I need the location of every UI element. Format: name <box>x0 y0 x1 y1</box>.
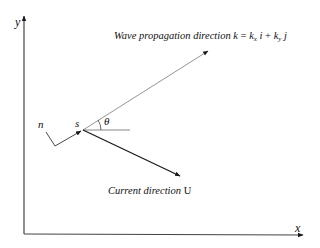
current-label-text: Current direction <box>108 185 181 196</box>
x-axis-label: x <box>295 222 300 234</box>
ray-path-n-to-s <box>46 131 81 146</box>
y-axis-label: y <box>15 16 20 28</box>
current-symbol: U <box>184 185 192 196</box>
point-n-label: n <box>38 119 44 130</box>
point-s-label: s <box>75 118 79 129</box>
wave-eq-j: j <box>281 30 287 41</box>
wave-label-text: Wave propagation direction <box>114 30 231 41</box>
current-direction-arrow <box>83 130 180 176</box>
theta-label: θ <box>104 116 109 127</box>
wave-eq-equals: = <box>238 30 249 41</box>
wave-direction-label: Wave propagation direction k = kx i + ky… <box>114 31 287 43</box>
x-axis <box>24 234 303 235</box>
current-direction-label: Current direction U <box>108 186 191 197</box>
wave-eq-plus: + <box>262 30 273 41</box>
theta-angle-arc <box>98 120 101 130</box>
wave-direction-arrow <box>83 51 208 130</box>
